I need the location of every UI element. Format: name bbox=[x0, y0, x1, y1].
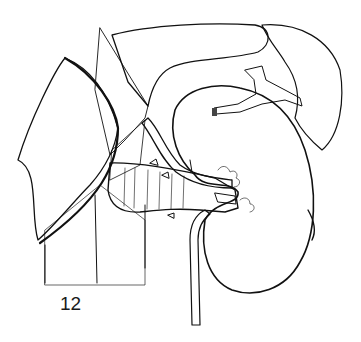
hatched-tissue bbox=[45, 28, 148, 285]
anatomical-drawing bbox=[0, 0, 361, 342]
adrenal-vessel bbox=[212, 66, 302, 116]
upper-organ bbox=[112, 24, 342, 150]
kidney bbox=[173, 86, 315, 293]
figure-number: 12 bbox=[60, 293, 81, 315]
renal-artery bbox=[142, 118, 232, 188]
left-organ bbox=[18, 58, 118, 243]
ureter bbox=[190, 210, 210, 325]
illustration-canvas: 12 bbox=[0, 0, 361, 342]
